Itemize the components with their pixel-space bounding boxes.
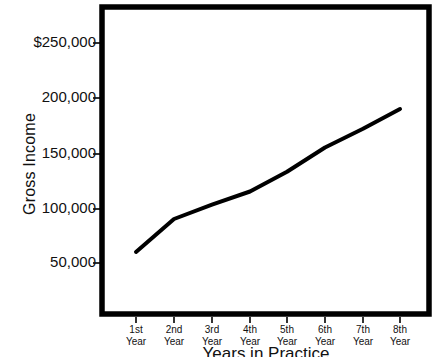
- x-tick-label-8th-year-line1: 8th: [393, 324, 407, 335]
- y-axis-tick-labels: $250,000 200,000 150,000 100,000 50,000: [0, 0, 96, 357]
- y-tick-label-150000: 150,000: [4, 144, 96, 161]
- x-tick-label-6th-year-line1: 6th: [318, 324, 332, 335]
- x-tick-label-3rd-year-line1: 3rd: [205, 324, 219, 335]
- x-tick-label-7th-year-line1: 7th: [356, 324, 370, 335]
- x-axis-title: Years in Practice: [99, 344, 433, 357]
- y-tick-label-100000: 100,000: [4, 199, 96, 216]
- y-tick-label-50000: 50,000: [4, 253, 96, 270]
- x-tick-label-5th-year-line1: 5th: [280, 324, 294, 335]
- x-axis-ticks: [136, 317, 400, 323]
- x-tick-label-2nd-year-line1: 2nd: [166, 324, 183, 335]
- plot-area-background: [102, 7, 429, 314]
- line-chart: Gross Income $250,000 200,000 150,000 10…: [0, 0, 445, 357]
- y-tick-label-200000: 200,000: [4, 88, 96, 105]
- y-tick-label-250000: $250,000: [4, 33, 96, 50]
- x-tick-label-4th-year-line1: 4th: [243, 324, 257, 335]
- x-tick-label-1st-year-line1: 1st: [129, 324, 142, 335]
